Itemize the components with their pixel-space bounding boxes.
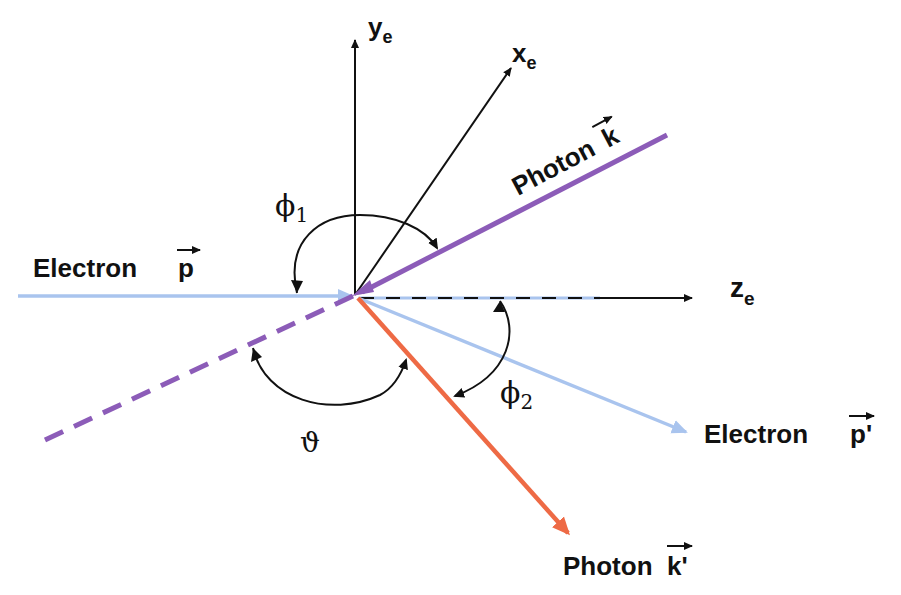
vector-p: p [178,253,194,283]
photon-out-line [358,298,568,533]
x-axis-label: xe [512,38,536,73]
svg-text:ze: ze [730,272,755,309]
diagram-svg: ye xe ze Electron p Photon k Electron p' [0,0,901,595]
photon-out-label: Photon k' [563,546,692,581]
phi1-label: ϕ1 [275,188,308,227]
compton-diagram: ye xe ze Electron p Photon k Electron p' [0,0,901,595]
electron-out-label: Electron p' [704,416,874,449]
theta-arc [251,348,406,405]
svg-text:xe: xe [512,38,536,73]
theta-label: ϑ [300,426,320,459]
svg-text:ye: ye [368,12,392,47]
phi2-label: ϕ2 [500,375,533,414]
svg-text:p': p' [850,419,872,449]
photon-in-extension-dashed [45,295,355,440]
svg-text:Photon: Photon [563,551,653,581]
svg-text:ϑ: ϑ [300,426,320,459]
y-axis-label: ye [368,12,392,47]
svg-text:ϕ2: ϕ2 [500,375,533,414]
svg-text:Electron: Electron [33,253,137,283]
svg-text:ϕ1: ϕ1 [275,188,308,227]
svg-text:Electron: Electron [704,419,808,449]
svg-text:k': k' [667,551,688,581]
z-axis-label: ze [730,272,755,309]
electron-in-label: Electron p [33,250,200,283]
svg-text:k: k [597,120,624,154]
x-axis [355,68,511,295]
photon-in-line [352,135,667,296]
